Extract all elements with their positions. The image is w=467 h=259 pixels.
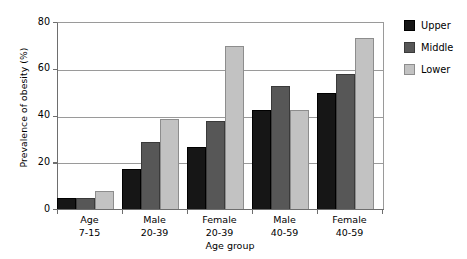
x-category-label-line: Female: [310, 214, 390, 227]
y-axis-title: Prevalence of obesity (%): [18, 23, 29, 193]
bar-middle: [141, 142, 160, 210]
bar-lower: [160, 119, 179, 210]
legend-item-middle[interactable]: Middle: [404, 36, 453, 58]
y-tick-label: 80: [22, 16, 50, 27]
bar-middle: [271, 86, 290, 210]
legend-swatch-lower: [404, 64, 415, 75]
chart-legend: UpperMiddleLower: [404, 14, 453, 80]
legend-label: Lower: [421, 64, 450, 75]
bar-chart: Prevalence of obesity (%) 020406080 Age7…: [0, 0, 467, 259]
y-tick-label: 60: [22, 62, 50, 73]
legend-swatch-middle: [404, 42, 415, 53]
bar-upper: [187, 147, 206, 210]
x-axis-line: [57, 209, 384, 210]
legend-swatch-upper: [404, 20, 415, 31]
bar-lower: [355, 38, 374, 210]
y-tick-label: 40: [22, 109, 50, 120]
bar-group: [57, 23, 114, 210]
legend-label: Upper: [421, 20, 451, 31]
y-tick-label: 0: [22, 203, 50, 214]
y-tick-label: 20: [22, 156, 50, 167]
bar-group: [252, 23, 309, 210]
bar-upper: [122, 169, 141, 210]
plot-area: [57, 22, 384, 210]
bar-group: [317, 23, 374, 210]
bar-upper: [317, 93, 336, 210]
bar-upper: [252, 110, 271, 211]
bar-middle: [336, 74, 355, 210]
legend-label: Middle: [421, 42, 453, 53]
bar-middle: [206, 121, 225, 210]
bar-group: [187, 23, 244, 210]
x-category-label-line: 40-59: [310, 227, 390, 240]
bar-lower: [290, 110, 309, 211]
bar-lower: [95, 191, 114, 210]
bar-lower: [225, 46, 244, 210]
x-axis-title: Age group: [190, 240, 270, 251]
legend-item-upper[interactable]: Upper: [404, 14, 453, 36]
x-category-label: Female40-59: [310, 214, 390, 239]
bar-group: [122, 23, 179, 210]
legend-item-lower[interactable]: Lower: [404, 58, 453, 80]
